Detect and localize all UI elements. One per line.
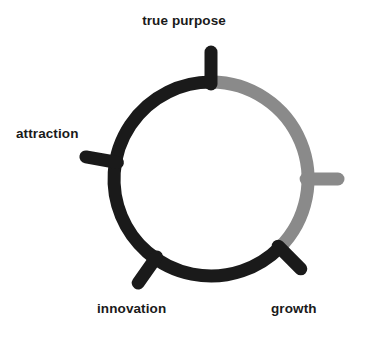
gray-arc-segment: [211, 82, 308, 248]
radial-cycle-diagram: true purpose attraction innovation growt…: [0, 0, 368, 337]
tick-innovation: [138, 257, 156, 283]
label-innovation: innovation: [97, 302, 166, 316]
label-attraction: attraction: [16, 127, 79, 141]
label-growth: growth: [271, 302, 317, 316]
tick-attraction: [86, 157, 118, 163]
tick-growth: [278, 246, 301, 269]
diagram-graphic: [0, 0, 368, 337]
dark-arc-segment: [114, 82, 280, 276]
label-true-purpose: true purpose: [0, 14, 368, 28]
